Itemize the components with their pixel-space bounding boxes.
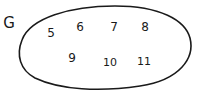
set-element: 5 bbox=[47, 27, 55, 39]
set-element: 10 bbox=[103, 57, 117, 68]
set-diagram: G 5 6 7 8 9 10 11 bbox=[0, 0, 199, 93]
set-element: 7 bbox=[110, 21, 118, 33]
set-label: G bbox=[3, 16, 15, 31]
set-boundary-ellipse bbox=[0, 0, 199, 93]
set-element: 6 bbox=[76, 21, 84, 33]
set-element: 8 bbox=[141, 21, 149, 33]
set-element: 9 bbox=[68, 52, 76, 64]
set-element: 11 bbox=[137, 56, 151, 67]
